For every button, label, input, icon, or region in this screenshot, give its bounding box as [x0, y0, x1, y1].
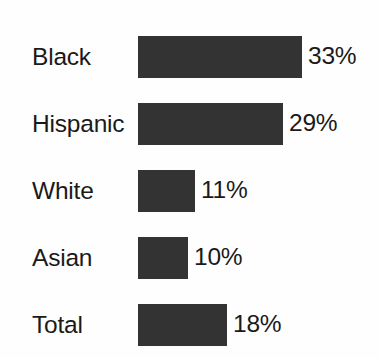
bar-value-black: 33%: [308, 44, 356, 69]
bar-group-white: 11%: [138, 170, 248, 212]
chart-row: Black 33%: [0, 23, 380, 90]
bar-group-black: 33%: [138, 36, 356, 78]
category-label-hispanic: Hispanic: [32, 111, 124, 136]
bar-value-hispanic: 29%: [289, 111, 337, 136]
bar-black: [138, 36, 302, 78]
bar-value-asian: 10%: [194, 245, 242, 270]
bar-asian: [138, 237, 188, 279]
bar-group-hispanic: 29%: [138, 103, 337, 145]
category-label-black: Black: [32, 44, 91, 69]
chart-row: White 11%: [0, 157, 380, 224]
category-label-white: White: [32, 178, 94, 203]
bar-white: [138, 170, 195, 212]
chart-row: Hispanic 29%: [0, 90, 380, 157]
bar-value-white: 11%: [201, 178, 248, 203]
category-label-asian: Asian: [32, 245, 92, 270]
bar-group-asian: 10%: [138, 237, 242, 279]
bar-hispanic: [138, 103, 283, 145]
chart-row: Asian 10%: [0, 224, 380, 291]
bar-chart: Black 33% Hispanic 29% White 11% Asian: [0, 0, 380, 358]
category-label-total: Total: [32, 312, 83, 337]
bar-chart-rows: Black 33% Hispanic 29% White 11% Asian: [0, 0, 380, 358]
chart-row: Total 18%: [0, 291, 380, 358]
bar-value-total: 18%: [233, 312, 281, 337]
bar-group-total: 18%: [138, 304, 281, 346]
bar-total: [138, 304, 227, 346]
